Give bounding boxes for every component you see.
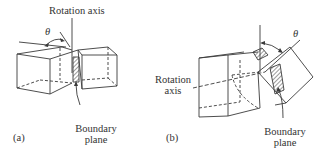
- rotation-axis-label-a: Rotation axis: [49, 5, 105, 16]
- rotation-axis-label-b: Rotation axis: [148, 74, 198, 96]
- boundary-label-b-line1: Boundary: [255, 126, 315, 137]
- left-crystal-front: [17, 54, 50, 94]
- boundary-label-a-line1: Boundary: [71, 123, 121, 134]
- theta-symbol-a: θ: [45, 26, 50, 37]
- rotation-axis-line: [193, 72, 265, 88]
- rotation-axis-label-b-line1: Rotation: [148, 74, 198, 85]
- left-crystal-front: [199, 55, 228, 117]
- panel-label-a: (a): [13, 132, 25, 143]
- right-crystal: [78, 47, 117, 89]
- boundary-label-b-line2: plane: [255, 137, 315, 148]
- boundary-label-a-line2: plane: [71, 134, 121, 145]
- panel-label-b: (b): [166, 132, 178, 143]
- rotation-axis-label-b-line2: axis: [148, 85, 198, 96]
- diagram-a-tilt-boundary: [17, 18, 117, 105]
- boundary-plane-hatched: [73, 57, 79, 82]
- boundary-label-b: Boundary plane: [255, 126, 315, 148]
- theta-symbol-b: θ: [293, 28, 298, 39]
- boundary-label-a: Boundary plane: [71, 123, 121, 145]
- boundary-plane-hatched-top: [253, 48, 268, 60]
